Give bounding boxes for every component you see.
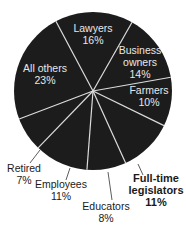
label-full-time-legislators: Full-time legislators 11% bbox=[126, 172, 186, 208]
label-value: 11% bbox=[32, 190, 90, 202]
label-value: 10% bbox=[128, 96, 170, 108]
label-farmers: Farmers 10% bbox=[128, 84, 170, 108]
label-value: 11% bbox=[126, 196, 186, 208]
label-all-others: All others 23% bbox=[20, 62, 70, 86]
label-name-line1: Business bbox=[115, 44, 165, 56]
label-value: 7% bbox=[4, 174, 44, 186]
label-value: 23% bbox=[20, 74, 70, 86]
label-name-line2: owners bbox=[115, 56, 165, 68]
label-name-line2: legislators bbox=[126, 184, 186, 196]
label-lawyers: Lawyers 16% bbox=[68, 22, 118, 46]
label-retired: Retired 7% bbox=[4, 162, 44, 186]
label-name: Farmers bbox=[128, 84, 170, 96]
label-value: 14% bbox=[115, 68, 165, 80]
leader-line bbox=[108, 172, 112, 200]
label-name: All others bbox=[20, 62, 70, 74]
label-name-line1: Full-time bbox=[126, 172, 186, 184]
label-value: 16% bbox=[68, 34, 118, 46]
label-name: Lawyers bbox=[68, 22, 118, 34]
label-value: 8% bbox=[78, 212, 134, 224]
label-educators: Educators 8% bbox=[78, 200, 134, 224]
label-name: Retired bbox=[4, 162, 44, 174]
label-business-owners: Business owners 14% bbox=[115, 44, 165, 80]
